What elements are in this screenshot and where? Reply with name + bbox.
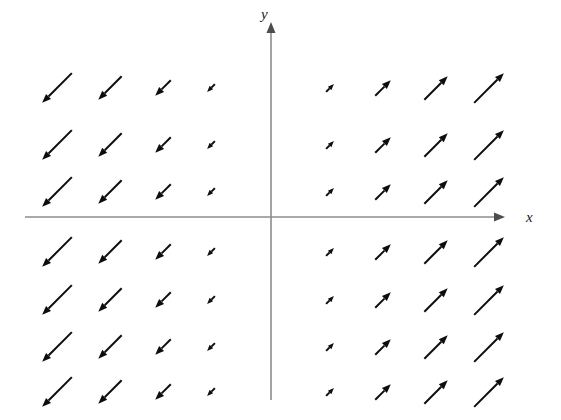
x-axis-arrowhead (494, 213, 505, 222)
vector-arrows-group (42, 73, 504, 407)
vector-arrow-shaft (474, 292, 497, 315)
vector-arrow-shaft (474, 80, 497, 103)
vector-arrow (326, 248, 334, 256)
vector-arrow (375, 384, 391, 400)
vector-arrow (207, 188, 215, 196)
vector-arrow-shaft (474, 384, 497, 407)
vector-arrow-shaft (105, 180, 122, 197)
vector-arrow-shaft (211, 248, 215, 252)
vector-arrow-shaft (49, 73, 72, 96)
vector-arrow (207, 248, 215, 256)
vector-arrow-shaft (211, 388, 215, 392)
vector-arrow-shaft (424, 187, 441, 204)
vector-arrow-shaft (375, 346, 384, 355)
vector-arrow (326, 141, 334, 149)
vector-arrow (98, 180, 121, 203)
vector-arrow-shaft (424, 140, 441, 157)
vector-arrow (155, 184, 171, 200)
vector-arrow-shaft (375, 191, 384, 200)
vector-arrow-shaft (49, 237, 72, 260)
vector-arrow-shaft (375, 87, 384, 96)
vector-arrow-shaft (424, 83, 441, 100)
vector-arrow (42, 332, 72, 362)
vector-arrow-shaft (211, 343, 215, 347)
vector-arrow (207, 296, 215, 304)
vector-arrow-shaft (162, 339, 171, 348)
vector-arrow-shaft (49, 377, 72, 400)
vector-arrow-shaft (375, 391, 384, 400)
vector-arrow (375, 244, 391, 260)
vector-arrow (42, 377, 72, 407)
vector-arrow (155, 339, 171, 355)
vector-arrow (98, 335, 121, 358)
vector-arrow (424, 133, 447, 156)
vector-arrow (474, 377, 504, 407)
vector-arrow-shaft (326, 145, 330, 149)
vector-arrow-shaft (375, 251, 384, 260)
vector-arrow-shaft (105, 240, 122, 257)
vector-arrow-shaft (424, 295, 441, 312)
vector-arrow (424, 76, 447, 99)
vector-field-figure: x y (0, 0, 561, 420)
vector-arrow (98, 288, 121, 311)
vector-arrow-shaft (162, 80, 171, 89)
vector-arrow (424, 180, 447, 203)
vector-arrow (326, 188, 334, 196)
vector-arrow (474, 285, 504, 315)
vector-arrow (207, 84, 215, 92)
vector-arrow (326, 84, 334, 92)
vector-arrow (155, 137, 171, 153)
vector-arrow (98, 240, 121, 263)
vector-arrow-shaft (105, 335, 122, 352)
vector-arrow-shaft (211, 188, 215, 192)
vector-arrow-shaft (424, 247, 441, 264)
vector-arrow (424, 288, 447, 311)
vector-arrow-shaft (326, 88, 330, 92)
vector-arrow-shaft (326, 192, 330, 196)
vector-arrow (326, 296, 334, 304)
axes-group (25, 22, 505, 400)
vector-arrow (42, 237, 72, 267)
vector-arrow-shaft (326, 252, 330, 256)
vector-arrow-shaft (49, 332, 72, 355)
vector-arrow (424, 335, 447, 358)
vector-arrow (375, 184, 391, 200)
vector-arrow-shaft (49, 130, 72, 153)
vector-arrow (155, 80, 171, 96)
vector-arrow (155, 244, 171, 260)
vector-arrow-shaft (162, 292, 171, 301)
vector-arrow (42, 130, 72, 160)
vector-arrow (98, 76, 121, 99)
vector-arrow-shaft (211, 141, 215, 145)
vector-arrow (42, 73, 72, 103)
vector-arrow-shaft (211, 296, 215, 300)
y-axis-label: y (259, 6, 268, 22)
vector-arrow-shaft (474, 244, 497, 267)
y-axis-arrowhead (267, 22, 276, 33)
vector-arrow (207, 343, 215, 351)
vector-arrow-shaft (162, 384, 171, 393)
vector-arrow (474, 332, 504, 362)
vector-arrow (474, 73, 504, 103)
vector-arrow-shaft (326, 300, 330, 304)
vector-arrow-shaft (375, 299, 384, 308)
vector-arrow-shaft (49, 285, 72, 308)
vector-arrow-shaft (105, 380, 122, 397)
vector-arrow (326, 388, 334, 396)
vector-arrow (155, 384, 171, 400)
vector-arrow (375, 339, 391, 355)
vector-arrow (42, 177, 72, 207)
vector-arrow (375, 80, 391, 96)
vector-arrow-shaft (474, 137, 497, 160)
vector-arrow (155, 292, 171, 308)
vector-arrow (474, 237, 504, 267)
vector-arrow-shaft (162, 244, 171, 253)
vector-arrow-shaft (326, 347, 330, 351)
vector-field-plot: x y (0, 0, 561, 420)
vector-arrow (42, 285, 72, 315)
vector-arrow-shaft (424, 387, 441, 404)
vector-arrow (326, 343, 334, 351)
vector-arrow-shaft (162, 184, 171, 193)
vector-arrow (207, 141, 215, 149)
vector-arrow (474, 130, 504, 160)
